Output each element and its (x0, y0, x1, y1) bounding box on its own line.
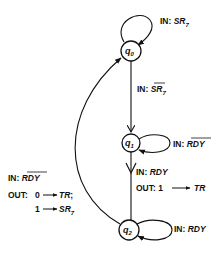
label-q2-to-q0-out: OUT: (8, 190, 28, 200)
label-q2-to-q0-out-1: 1 (35, 204, 40, 214)
label-q2-to-q0-in: IN: RDY (8, 173, 41, 183)
state-diagram: IN: SR7 IN: SR7 IN: RDY IN: RDY OUT: 1 T… (0, 0, 224, 257)
label-q0-self: IN: SR7 (160, 16, 190, 28)
label-q2-to-q0-out-sr7: SR7 (59, 204, 75, 216)
state-q2: q2 (119, 220, 139, 240)
edge-q1-self-loop (139, 135, 170, 153)
label-q1-to-q2-in: IN: RDY (136, 167, 169, 177)
edge-q2-self-loop (137, 220, 172, 240)
state-q1: q1 (122, 134, 140, 152)
label-q2-to-q0-out-tr: TR; (59, 190, 73, 200)
edge-q0-self-loop (121, 16, 152, 45)
label-q2-to-q0-out-0: 0 (35, 190, 40, 200)
label-q1-to-q2-out-signal: TR (194, 183, 206, 193)
label-q2-self: IN: RDY (174, 224, 207, 234)
label-q0-to-q1: IN: SR7 (137, 84, 167, 96)
edge-q2-to-q0 (75, 58, 121, 224)
label-q1-self: IN: RDY (173, 139, 206, 149)
label-q1-to-q2-out: OUT: 1 (136, 183, 163, 193)
state-q0: q0 (121, 41, 141, 61)
